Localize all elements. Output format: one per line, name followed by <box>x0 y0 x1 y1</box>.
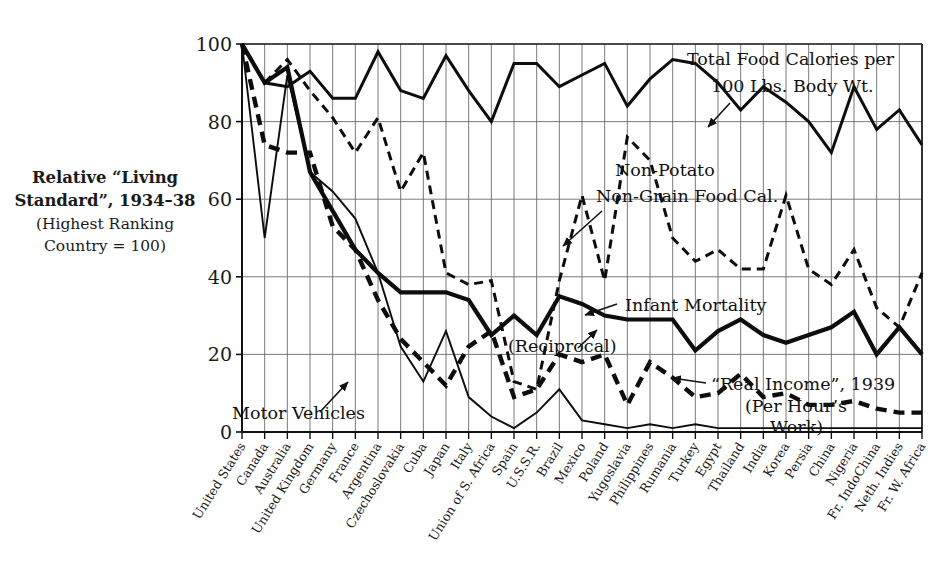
annotation-non-potato-line-1: Non-Potato <box>615 160 715 180</box>
y-tick-label: 0 <box>220 421 232 443</box>
y-tick-label: 80 <box>208 111 232 133</box>
y-tick-label: 20 <box>208 343 232 365</box>
annotation-arrow-total-food <box>708 103 730 127</box>
chart-page: Relative “Living Standard”, 1934–38 (Hig… <box>0 0 945 584</box>
y-tick-label: 60 <box>208 188 232 210</box>
annotation-infant-mortality: Infant Mortality <box>625 295 766 315</box>
annotation-non-potato-line-2: Non-Grain Food Cal. <box>596 186 778 206</box>
annotation-real-income-line-2: (Per Hour’s <box>745 396 847 416</box>
y-tick-label: 40 <box>208 266 232 288</box>
annotation-real-income-line-3: Work) <box>770 417 823 437</box>
living-standard-line-chart: 020406080100 United StatesCanadaAustrali… <box>0 0 945 584</box>
annotation-real-income-line-1: “Real Income”, 1939 <box>711 374 895 394</box>
annotation-total-food-calories-line-2: 100 Lbs. Body Wt. <box>711 76 874 96</box>
annotation-motor-vehicles: Motor Vehicles <box>232 403 365 423</box>
annotation-total-food-calories-line-1: Total Food Calories per <box>687 49 895 69</box>
x-axis-labels: United StatesCanadaAustraliaUnited Kingd… <box>189 439 928 544</box>
annotation-layer: Total Food Calories per100 Lbs. Body Wt.… <box>232 49 895 437</box>
annotation-arrow-non-potato <box>563 211 602 246</box>
y-axis-labels: 020406080100 <box>196 33 232 443</box>
y-tick-label: 100 <box>196 33 232 55</box>
annotation-infant-mortality-reciprocal: (Reciprocal) <box>508 336 617 356</box>
